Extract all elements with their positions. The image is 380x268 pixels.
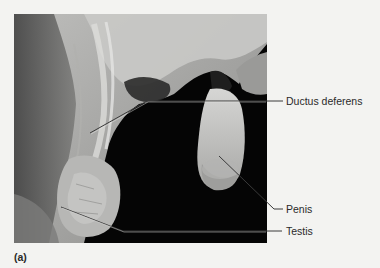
panel-label: (a) <box>14 251 27 263</box>
testis-leader-line <box>61 207 282 231</box>
ductus-deferens-leader-line <box>90 101 283 133</box>
label-penis: Penis <box>286 203 312 215</box>
penis-leader-line <box>219 156 283 209</box>
label-ductus-deferens: Ductus deferens <box>286 95 362 107</box>
anatomy-figure: Ductus deferens Penis Testis (a) <box>0 0 380 268</box>
leader-lines <box>0 0 380 268</box>
label-testis: Testis <box>286 225 313 237</box>
